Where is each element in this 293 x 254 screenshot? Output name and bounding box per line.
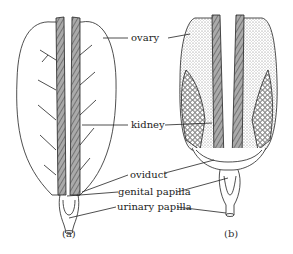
panel-a	[17, 17, 128, 234]
caption-panel-a: (a)	[62, 229, 76, 239]
kidney-left-b	[212, 15, 224, 160]
ovary-left-a	[17, 22, 60, 195]
label-genital-papilla: genital papilla	[118, 187, 191, 197]
caption-panel-b: (b)	[224, 229, 238, 239]
label-urinary-papilla: urinary papilla	[117, 202, 192, 212]
kidney-left-a	[56, 17, 66, 195]
label-kidney: kidney	[131, 120, 165, 130]
label-ovary: ovary	[131, 33, 159, 43]
kidney-right-b	[232, 15, 244, 160]
label-oviduct: oviduct	[130, 170, 167, 180]
ovary-right-a	[76, 22, 116, 195]
kidney-right-a	[70, 17, 80, 195]
